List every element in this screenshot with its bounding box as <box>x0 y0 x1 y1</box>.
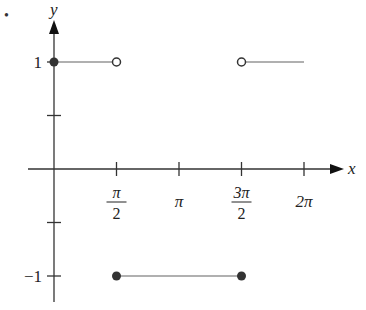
x-tick-label-denominator: 2 <box>113 205 121 222</box>
x-axis-arrow-icon <box>330 164 344 174</box>
x-tick-label: π <box>175 192 184 211</box>
segment-3-start-open-point <box>238 58 246 66</box>
segment-1-end-open-point <box>113 58 121 66</box>
x-tick-label-numerator: 3π <box>232 184 250 201</box>
y-tick-label: −1 <box>24 267 42 286</box>
x-axis-label: x <box>347 159 356 178</box>
y-axis-label: y <box>48 0 58 19</box>
x-tick-label-denominator: 2 <box>238 205 246 222</box>
segment-2-end-closed-point <box>237 272 246 281</box>
x-tick-label-numerator: π <box>112 184 121 201</box>
segment-1-start-closed-point <box>50 58 59 67</box>
step-function-chart: xyπ2π3π22π1−1 <box>0 0 366 310</box>
y-axis-arrow-icon <box>49 20 59 34</box>
segment-2-start-closed-point <box>112 272 121 281</box>
y-tick-label: 1 <box>34 53 43 72</box>
x-tick-label: 2π <box>295 192 313 211</box>
